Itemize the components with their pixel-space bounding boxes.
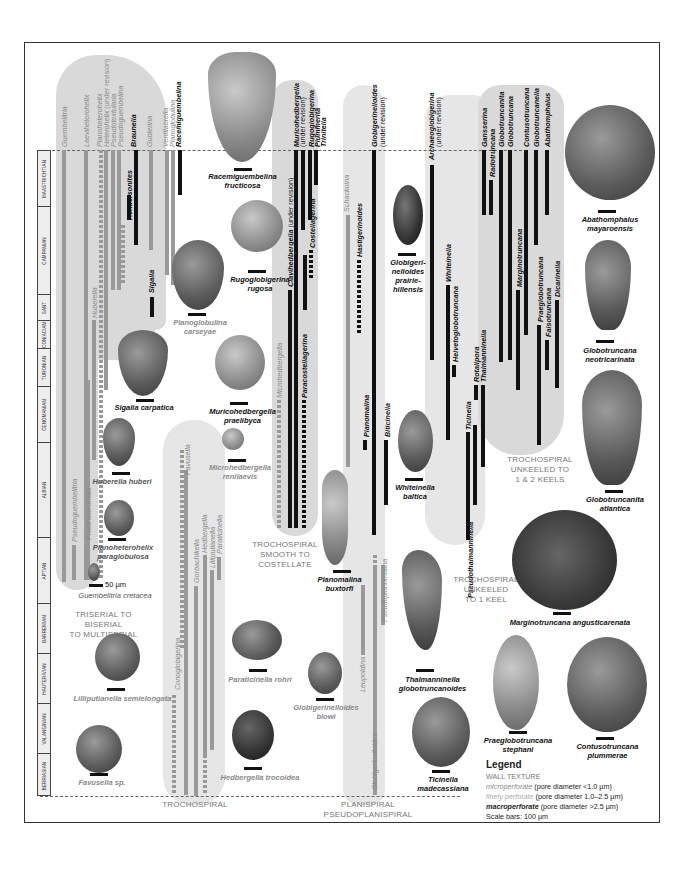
label-guembelitria: Guembelitria [60,106,69,147]
scale-bar [107,688,125,691]
scale-bar [136,399,154,402]
specimen-rugoglobigerina-rugosa [231,200,283,252]
group-label-unkeeled2: TROCHOSPIRAL UNKEELED TO 1 & 2 KEELS [505,455,575,485]
caption-marginotruncana-angusticarenata: Marginotruncana angusticarenata [500,618,640,627]
specimen-favusella-sp [76,725,122,773]
scale-bar [405,478,423,481]
scale-bar-50 [89,584,103,587]
scale-bar [228,459,246,462]
caption-muricohedbergella-praelibyca: Muricohedbergella praelibyca [205,407,280,425]
caption-planomalina-buxtorfi: Planomalina buxtorfi [312,575,367,593]
range-radotruncana [489,180,493,215]
range-gansserina [482,150,486,215]
specimen-guembelitria-cretacea [88,563,100,581]
label-falsotruncana: Falsotruncana [544,288,553,337]
range-marginotruncana [516,290,520,390]
caption-globigerinelloides-prairiehillensis: Globigeri- nelloides prairie- hillensis [383,258,433,294]
label-hendersonites: Hendersonites [125,170,134,220]
scale-50-label: 50 µm [105,580,135,589]
label-globotruncanita: Globotruncanita [497,91,506,147]
range-trinitella [314,150,318,185]
specimen-marginotruncana-angusticarenata [512,510,617,610]
range-conoglobigerina [172,695,176,795]
label-favusella: Favusella [183,444,192,475]
label-microhedbergella: Microhedbergella [275,343,284,398]
caption-abathomphalus-mayaroensis: Abathomphalus mayaroensis [570,215,650,233]
group-label-unkeeled1: TROCHOSPIRAL UNKEELED TO 1 KEEL [446,575,526,605]
range-leupoldina [361,585,365,655]
specimen-globigerinelloides-blowi [308,652,342,694]
range-rugoglobigerina [301,150,305,230]
scale-bar [90,773,108,776]
scale-bar [509,731,527,734]
label-whiteinella: Whiteinella [444,244,453,282]
label-hastigerinoides: Hastigerinoides [355,203,364,257]
range-pseudoguembelina-ext [121,225,125,285]
range-pseudotextularia [111,150,115,290]
stage-hauterivian: HAUTERIVIAN [38,654,50,704]
range-falsotruncana [545,340,549,370]
caption-globigerinelloides-blowi: Globigerinelloides blowi [290,703,362,721]
caption-thalmanninella-globotruncanoides: Thalmanninella globotruncanoides [395,675,470,693]
range-biticinella [384,440,388,505]
stage-cenomanian: CENOMANIAN [38,387,50,443]
caption-hedbergella-trocoidea: Hedbergella trocoidea [220,773,300,782]
range-schackoina [346,215,350,467]
scale-bar [605,490,623,493]
stage-turonian: TURONIAN [38,349,50,387]
range-clavihedbergella [288,290,292,528]
label-dicarinella: Dicarinella [553,261,562,297]
caption-rugoglobigerina-rugosa: Rugoglobigerina rugosa [220,275,300,293]
specimen-planoheterohelix-paraglobulosa [104,500,134,536]
scale-bar [333,570,351,573]
legend-title: Legend [486,760,623,770]
caption-lilliputianella-semielongata: Lilliputianella semielongata [60,694,185,703]
stage-coniacian: CONIACIAN [38,321,50,349]
range-ticinella-b [473,425,477,505]
label-biticinella: Biticinella [383,403,392,437]
label-pseudoguembelitria: Pseudoguembelitria [70,478,79,542]
scale-bar [398,253,416,256]
range-gublerina [149,150,153,250]
range-paraticinella [217,557,221,580]
range-praeglobotruncana [537,325,541,445]
label-radotruncana: Radotruncana [488,129,497,177]
stage-column: MAASTRICHTIAN CAMPANIAN SANT CONIACIAN T… [37,150,51,796]
label-laeviheterohelix: Laeviheterohelix [82,95,91,147]
caption-ticinella-madecassiana: Ticinella madecassiana [410,775,476,793]
caption-racemiguembelina-fructicosa: Racemiguembelina fructicosa [195,172,290,190]
range-costellagerina-ext [309,250,313,280]
caption-sigalia-carpatica: Sigalia carpatica [104,403,184,412]
label-marginotruncana: Marginotruncana [515,229,524,287]
scale-bar [553,612,571,615]
scale-bar [249,669,267,672]
legend-wall-texture: WALL TEXTURE [486,772,623,782]
range-pseudoplanomalina [373,555,377,565]
range-hedbergella [203,555,207,755]
range-helvetoglobotruncana [452,365,456,377]
label-sigalia: Sigalia [147,270,156,293]
caption-huberella-huberi: Huberella huberi [92,477,152,486]
range-hedbergella-ext [203,755,207,795]
range-guembelitria [62,150,66,582]
specimen-paraticinella-rohri [232,620,282,660]
range-gorbachikella [194,586,198,796]
range-abathomphalus [545,150,549,215]
label-archaeoglobigerina-note: (under revision) [434,97,443,147]
scale-bar [416,669,434,672]
legend-finely-perforate: finely perforate (pore diameter 1.0–2.5 … [486,792,623,802]
range-whiteinella [446,285,450,440]
range-globotruncana [508,150,512,360]
range-globotruncanita [499,150,503,362]
range-sigalia [150,297,154,317]
range-globotruncanella [534,150,538,245]
scale-bar [596,340,614,343]
legend-microperforate: microperforate (pore diameter <1.0 µm) [486,782,623,792]
stage-aptian: APTIAN [38,538,50,604]
label-braunella: Braunella [129,114,138,147]
specimen-ticinella-madecassiana [412,697,470,767]
specimen-microhedbergella-renilaevis [222,428,244,450]
stage-santonian: SANT [38,295,50,321]
base-boundary-line [40,796,460,797]
caption-microhedbergella-renilaevis: Microhedbergella renilaevis [205,463,275,481]
